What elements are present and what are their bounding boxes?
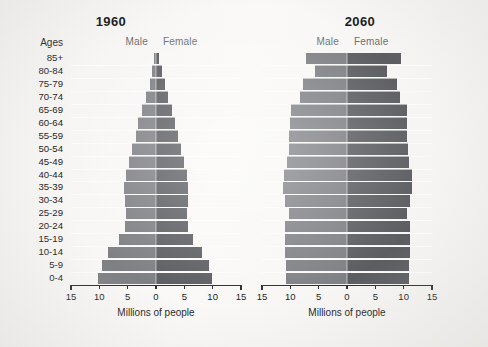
plot-area-2060 (262, 52, 432, 285)
bar-male-45-49 (129, 156, 156, 168)
bar-female-50-54 (347, 143, 408, 155)
x-tick-label: 5 (182, 291, 187, 302)
age-label-35-39: 35-39 (38, 181, 63, 194)
bar-male-25-29 (289, 208, 347, 220)
bar-female-25-29 (347, 208, 407, 220)
bar-female-10-14 (347, 247, 410, 259)
bar-female-60-64 (156, 117, 175, 129)
x-tick (70, 285, 71, 290)
bar-male-55-59 (289, 130, 347, 142)
age-label-0-4: 0-4 (49, 272, 63, 285)
plot-area-1960 (71, 52, 241, 285)
x-tick (346, 285, 347, 289)
bar-female-40-44 (156, 169, 187, 181)
bar-male-35-39 (283, 182, 347, 194)
x-axis-1960: 15105051015 (71, 285, 241, 286)
x-tick (290, 285, 291, 289)
x-tick (375, 285, 376, 289)
bar-female-80-84 (347, 65, 387, 77)
bar-female-0-4 (156, 273, 212, 285)
bar-female-85+ (156, 53, 159, 65)
bar-female-75-79 (156, 78, 165, 90)
bar-female-30-34 (156, 195, 188, 207)
age-label-30-34: 30-34 (38, 194, 63, 207)
ages-axis-column: Ages 85+80-8475-7970-7465-6960-6455-5950… (0, 36, 66, 50)
bar-female-85+ (347, 53, 401, 65)
bar-male-70-74 (300, 91, 347, 103)
age-label-75-79: 75-79 (38, 78, 63, 91)
legend-male-1960: Male (126, 36, 148, 47)
center-divider-2060 (347, 52, 348, 285)
legend-male-2060: Male (317, 36, 339, 47)
bar-female-15-19 (156, 234, 193, 246)
figure-page: Ages 85+80-8475-7970-7465-6960-6455-5950… (0, 0, 488, 347)
bar-female-5-9 (347, 260, 409, 272)
x-tick-label: 0 (153, 291, 158, 302)
bar-female-60-64 (347, 117, 407, 129)
panel-1960: Ages 85+80-8475-7970-7465-6960-6455-5950… (0, 0, 248, 347)
bar-female-35-39 (156, 182, 188, 194)
bar-male-65-69 (291, 104, 347, 116)
legend-female-2060: Female (354, 36, 389, 47)
panel-2060: 2060 Male Female 15105051015 Millions of… (248, 0, 488, 347)
x-tick-label: 5 (316, 291, 321, 302)
chart-title-2060: 2060 (240, 14, 480, 29)
x-tick-label: 10 (207, 291, 218, 302)
bar-male-60-64 (290, 117, 347, 129)
bar-male-50-54 (132, 143, 156, 155)
bar-male-55-59 (136, 130, 156, 142)
age-label-10-14: 10-14 (38, 246, 63, 259)
x-tick-label: 10 (285, 291, 296, 302)
bar-female-80-84 (156, 65, 162, 77)
x-tick (403, 285, 404, 289)
bar-female-55-59 (347, 130, 407, 142)
bar-male-5-9 (286, 260, 347, 272)
x-tick (261, 285, 262, 290)
age-label-60-64: 60-64 (38, 117, 63, 130)
age-label-55-59: 55-59 (38, 130, 63, 143)
bar-female-10-14 (156, 247, 202, 259)
bar-male-75-79 (303, 78, 347, 90)
legend-female-1960: Female (163, 36, 198, 47)
bar-female-25-29 (156, 208, 187, 220)
x-tick (240, 285, 241, 290)
bar-female-70-74 (156, 91, 168, 103)
x-tick-label: 15 (236, 291, 247, 302)
bar-female-70-74 (347, 91, 400, 103)
bar-female-5-9 (156, 260, 209, 272)
bar-male-5-9 (102, 260, 156, 272)
bar-male-10-14 (285, 247, 347, 259)
x-axis-2060: 15105051015 (262, 285, 432, 286)
bar-male-0-4 (286, 273, 347, 285)
age-label-5-9: 5-9 (49, 259, 63, 272)
age-label-45-49: 45-49 (38, 156, 63, 169)
bar-male-30-34 (125, 195, 156, 207)
x-tick-label: 5 (373, 291, 378, 302)
bar-female-15-19 (347, 234, 410, 246)
bar-male-85+ (306, 53, 347, 65)
axis-title-1960: Millions of people (71, 307, 241, 318)
x-tick (155, 285, 156, 289)
bar-male-10-14 (108, 247, 156, 259)
age-label-85+: 85+ (47, 52, 63, 65)
age-label-65-69: 65-69 (38, 104, 63, 117)
age-label-50-54: 50-54 (38, 143, 63, 156)
x-tick (318, 285, 319, 289)
x-tick-label: 5 (125, 291, 130, 302)
x-tick (184, 285, 185, 289)
x-tick (127, 285, 128, 289)
bar-female-40-44 (347, 169, 412, 181)
age-label-20-24: 20-24 (38, 220, 63, 233)
x-tick (431, 285, 432, 290)
x-tick-label: 15 (427, 291, 438, 302)
bar-female-35-39 (347, 182, 412, 194)
bar-female-30-34 (347, 195, 410, 207)
age-label-40-44: 40-44 (38, 169, 63, 182)
bar-male-15-19 (119, 234, 156, 246)
bar-female-20-24 (347, 221, 410, 233)
x-tick-label: 15 (66, 291, 77, 302)
bar-male-15-19 (285, 234, 347, 246)
bar-male-0-4 (98, 273, 156, 285)
bar-male-80-84 (315, 65, 347, 77)
bar-male-40-44 (126, 169, 156, 181)
